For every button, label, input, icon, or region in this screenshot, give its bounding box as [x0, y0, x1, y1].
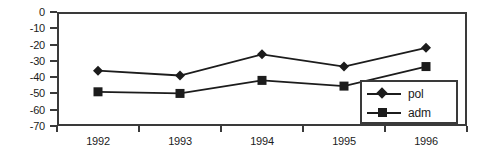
y-tick-mark — [50, 27, 57, 29]
x-tick-mark — [466, 126, 468, 132]
legend-label-pol: pol — [408, 88, 423, 100]
x-tick-label: 1994 — [250, 136, 274, 147]
y-tick-mark — [50, 92, 57, 94]
y-axis: 0-10-20-30-40-50-60-70 — [0, 0, 57, 162]
y-tick-label: -30 — [30, 55, 45, 66]
y-tick-mark — [50, 11, 57, 13]
legend-label-adm: adm — [408, 107, 431, 119]
y-tick-label: -40 — [30, 72, 45, 83]
legend-marker-diamond-icon — [366, 87, 402, 101]
x-tick-mark — [302, 126, 304, 132]
x-tick-mark — [220, 126, 222, 132]
x-tick-label: 1995 — [332, 136, 356, 147]
y-tick-mark — [50, 44, 57, 46]
x-tick-label: 1996 — [414, 136, 438, 147]
y-tick-mark — [50, 76, 57, 78]
y-tick-label: -10 — [30, 23, 45, 34]
legend-marker-square-icon — [366, 106, 402, 120]
chart-screenshot: 0-10-20-30-40-50-60-70 19921993199419951… — [0, 0, 483, 162]
x-tick-mark — [138, 126, 140, 132]
x-tick-mark — [384, 126, 386, 132]
legend-item-adm: adm — [366, 103, 452, 122]
y-tick-label: -70 — [30, 121, 45, 132]
y-tick-mark — [50, 60, 57, 62]
chart-legend: pol adm — [360, 80, 458, 124]
y-tick-label: 0 — [39, 7, 45, 18]
y-tick-label: -50 — [30, 88, 45, 99]
y-tick-label: -20 — [30, 39, 45, 50]
x-tick-mark — [56, 126, 58, 132]
x-tick-label: 1992 — [86, 136, 110, 147]
y-tick-mark — [50, 109, 57, 111]
x-tick-label: 1993 — [168, 136, 192, 147]
y-tick-label: -60 — [30, 104, 45, 115]
legend-item-pol: pol — [366, 84, 452, 103]
